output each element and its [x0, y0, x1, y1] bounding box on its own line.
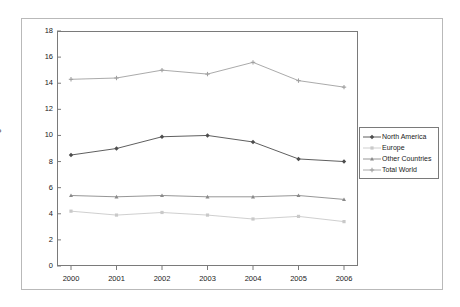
x-axis-tick-label: 2002: [154, 274, 171, 283]
legend-marker-icon: [362, 132, 382, 142]
data-point-marker: [69, 77, 73, 81]
legend-marker-icon: [362, 165, 382, 175]
data-point-marker: [342, 159, 346, 163]
y-axis-tick-label: 2: [33, 236, 53, 244]
data-point-marker: [342, 220, 345, 223]
y-axis-tick-label: 18: [33, 27, 53, 35]
data-point-marker: [114, 146, 118, 150]
data-point-marker: [160, 211, 163, 214]
data-point-marker: [297, 215, 300, 218]
data-point-marker: [296, 78, 300, 82]
series-line: [71, 135, 344, 161]
legend-item-total-world[interactable]: Total World: [362, 164, 435, 175]
data-point-marker: [370, 134, 374, 138]
legend-label: North America: [382, 132, 426, 141]
data-point-marker: [251, 140, 255, 144]
data-point-marker: [69, 210, 72, 213]
legend-marker-icon: [362, 143, 382, 153]
data-point-marker: [115, 213, 118, 216]
data-point-marker: [206, 213, 209, 216]
data-point-marker: [69, 153, 73, 157]
x-axis-tick-label: 2006: [336, 274, 353, 283]
data-point-marker: [370, 167, 374, 171]
series-europe: [69, 210, 345, 224]
y-axis-tick-label: 14: [33, 79, 53, 87]
legend-item-europe[interactable]: Europe: [362, 142, 435, 153]
y-axis-title: Nights: [0, 119, 1, 140]
legend-label: Total World: [382, 165, 417, 174]
line-chart: 181614121086420 Nights 20002001200220032…: [0, 0, 460, 307]
data-point-marker: [370, 146, 373, 149]
data-point-marker: [251, 217, 254, 220]
y-axis-tick-labels: 181614121086420: [31, 0, 53, 307]
legend: North AmericaEuropeOther CountriesTotal …: [359, 127, 439, 179]
data-point-marker: [251, 60, 255, 64]
y-axis-tick-label: 4: [33, 210, 53, 218]
legend-label: Europe: [382, 143, 405, 152]
y-axis-tick-label: 8: [33, 158, 53, 166]
series-total-world: [69, 60, 346, 89]
data-point-marker: [205, 133, 209, 137]
x-axis-tick-labels: 2000200120022003200420052006: [57, 272, 358, 286]
legend-item-other-countries[interactable]: Other Countries: [362, 153, 435, 164]
plot-series-layer: [57, 31, 358, 266]
y-axis-tick-label: 10: [33, 131, 53, 139]
y-axis-tick-label: 16: [33, 53, 53, 61]
x-axis-tick-label: 2005: [290, 274, 307, 283]
y-axis-tick-label: 6: [33, 184, 53, 192]
data-point-marker: [342, 85, 346, 89]
data-point-marker: [296, 157, 300, 161]
x-axis-tick-label: 2000: [63, 274, 80, 283]
data-point-marker: [160, 68, 164, 72]
y-axis-tick-label: 0: [33, 262, 53, 270]
y-axis-tick-label: 12: [33, 105, 53, 113]
x-axis-tick-label: 2004: [245, 274, 262, 283]
data-point-marker: [114, 76, 118, 80]
data-point-marker: [160, 135, 164, 139]
legend-marker-icon: [362, 154, 382, 164]
legend-label: Other Countries: [382, 154, 431, 163]
data-point-marker: [205, 72, 209, 76]
legend-item-north-america[interactable]: North America: [362, 131, 435, 142]
series-north-america: [69, 133, 346, 164]
x-axis-tick-label: 2003: [199, 274, 216, 283]
series-other-countries: [69, 194, 346, 202]
x-axis-tick-label: 2001: [108, 274, 125, 283]
